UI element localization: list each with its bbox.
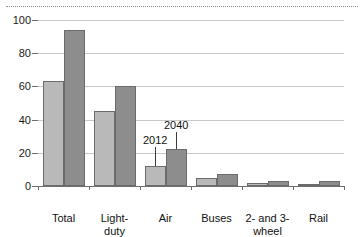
bar-2040-rail [319,181,340,186]
bar-chart-figure: 020406080100TotalLight- duty vehiclesAir… [0,0,364,237]
bar-2040-light--duty-vehicles [115,86,136,186]
y-axis-tick-label: 60 [19,81,31,92]
bar-2012-air [145,166,166,186]
bar-2040-buses [217,174,238,186]
y-axis-tick-label: 20 [19,147,31,158]
top-dotted-rule [6,6,358,7]
y-axis-tick-label: 40 [19,114,31,125]
bar-2012-light--duty-vehicles [94,111,115,186]
series-annotation-2040: 2040 [164,120,188,131]
x-axis-tick-mark [293,186,294,190]
y-tick-mark-100 [32,20,38,21]
y-tick-mark-80 [32,53,38,54]
y-axis-tick-label: 0 [25,181,31,192]
bar-2012-2--and-3--wheel-vehicles [247,183,268,186]
x-axis-tick-mark [89,186,90,190]
annotation-leader-line-2012 [155,147,156,166]
y-axis-tick-label: 80 [19,48,31,59]
x-axis-tick-mark [140,186,141,190]
x-axis-tick-mark [38,186,39,190]
bar-2040-air [166,149,187,186]
x-axis-tick-mark [191,186,192,190]
gridline-100 [38,20,344,21]
bar-2012-total [43,81,64,186]
bar-2040-total [64,30,85,186]
bar-2040-2--and-3--wheel-vehicles [268,181,289,186]
y-tick-mark-60 [32,86,38,87]
plot-area: 020406080100TotalLight- duty vehiclesAir… [38,20,344,186]
series-annotation-2012: 2012 [143,135,167,146]
x-axis-category-label: Rail [287,212,350,225]
y-tick-mark-20 [32,153,38,154]
annotation-leader-line-2040 [176,132,177,149]
bar-2012-rail [298,184,319,186]
y-tick-mark-40 [32,120,38,121]
y-axis-tick-label: 100 [13,15,31,26]
x-axis-tick-mark [344,186,345,190]
x-axis-tick-mark [242,186,243,190]
bar-2012-buses [196,178,217,186]
